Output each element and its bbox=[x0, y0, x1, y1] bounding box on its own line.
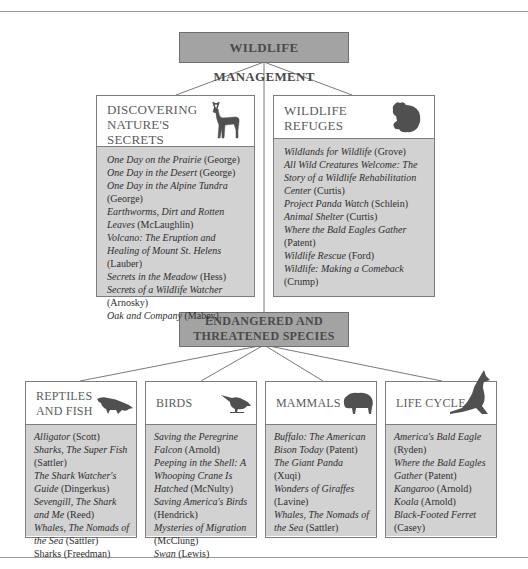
card-mammals: MAMMALS Buffalo: The American Bison Toda… bbox=[265, 381, 377, 538]
book-entry: Wildlands for Wildlife (Grove) bbox=[284, 145, 426, 158]
alligator-icon bbox=[96, 394, 134, 416]
card-title-line: NATURE'S bbox=[107, 117, 197, 132]
book-entry: One Day on the Prairie (George) bbox=[107, 153, 246, 166]
book-list: Alligator (Scott) Sharks, The Super Fish… bbox=[26, 425, 136, 536]
book-entry: One Day in the Alpine Tundra (George) bbox=[107, 179, 246, 205]
card-title-line: DISCOVERING bbox=[107, 102, 197, 117]
book-entry: Kangaroo (Arnold) bbox=[394, 482, 490, 495]
book-entry: Wildlife Rescue (Ford) bbox=[284, 249, 426, 262]
deer-icon bbox=[209, 100, 243, 140]
book-list: Buffalo: The American Bison Today (Paten… bbox=[266, 425, 376, 536]
kangaroo-icon bbox=[448, 368, 494, 420]
book-entry: Sharks, The Super Fish (Sattler) bbox=[34, 443, 130, 469]
top-divider bbox=[0, 11, 528, 12]
book-entry: Where the Bald Eagles Gather (Patent) bbox=[394, 456, 490, 482]
header-title: WILDLIFE MANAGEMENT bbox=[213, 40, 314, 84]
book-entry: Sevengill, The Shark and Me (Reed) bbox=[34, 495, 130, 521]
bison-icon bbox=[342, 390, 374, 416]
card-birds: BIRDS Saving the Peregrine Falcon (Arnol… bbox=[145, 381, 257, 538]
book-entry: Peeping in the Shell: A Whooping Crane I… bbox=[154, 456, 250, 495]
book-list: America's Bald Eagle (Ryden) Where the B… bbox=[386, 425, 496, 536]
card-title-line: BIRDS bbox=[156, 396, 192, 411]
book-entry: Project Panda Watch (Schlein) bbox=[284, 197, 426, 210]
book-list: Wildlands for Wildlife (Grove) All Wild … bbox=[274, 139, 434, 296]
book-entry: Saving the Peregrine Falcon (Arnold) bbox=[154, 430, 250, 456]
book-entry: The Shark Watcher's Guide (Dingerkus) bbox=[34, 469, 130, 495]
card-title-line: SECRETS bbox=[107, 132, 197, 147]
card-title-line: WILDLIFE bbox=[284, 103, 347, 118]
card-reptiles-and-fish: REPTILES AND FISH Alligator (Scott) Shar… bbox=[25, 381, 137, 538]
card-discovering-natures-secrets: DISCOVERING NATURE'S SECRETS One Day on … bbox=[96, 95, 255, 297]
wildlife-management-header: WILDLIFE MANAGEMENT bbox=[179, 32, 349, 63]
book-entry: Oak and Company (Mabey) bbox=[107, 309, 246, 322]
book-entry: Koala (Arnold) bbox=[394, 495, 490, 508]
book-entry: Buffalo: The American Bison Today (Paten… bbox=[274, 430, 370, 456]
card-title-line: REPTILES bbox=[36, 389, 93, 404]
book-entry: Volcano: The Eruption and Healing of Mou… bbox=[107, 231, 246, 270]
book-entry: Swan (Lewis) bbox=[154, 547, 250, 560]
book-entry: Sharks (Freedman) bbox=[34, 547, 130, 560]
book-entry: Wonders of Giraffes (Lavine) bbox=[274, 482, 370, 508]
card-title-line: AND FISH bbox=[36, 404, 93, 419]
card-title-line: REFUGES bbox=[284, 118, 347, 133]
book-entry: One Day in the Desert (George) bbox=[107, 166, 246, 179]
book-entry: Animal Shelter (Curtis) bbox=[284, 210, 426, 223]
book-entry: Where the Bald Eagles Gather (Patent) bbox=[284, 223, 426, 249]
header-title-line2: THREATENED SPECIES bbox=[180, 329, 348, 344]
book-entry: Secrets of a Wildlife Watcher (Arnosky) bbox=[107, 283, 246, 309]
book-list: One Day on the Prairie (George) One Day … bbox=[97, 147, 254, 296]
book-list: Saving the Peregrine Falcon (Arnold) Pee… bbox=[146, 425, 256, 536]
book-entry: The Giant Panda (Xuqi) bbox=[274, 456, 370, 482]
book-entry: Wildlife: Making a Comeback (Crump) bbox=[284, 262, 426, 288]
book-entry: All Wild Creatures Welcome: The Story of… bbox=[284, 158, 426, 197]
card-wildlife-refuges: WILDLIFE REFUGES Wildlands for Wildlife … bbox=[273, 95, 435, 297]
bird-icon bbox=[220, 392, 254, 416]
book-entry: Black-Footed Ferret (Casey) bbox=[394, 508, 490, 534]
card-life-cycle: LIFE CYCLE America's Bald Eagle (Ryden) … bbox=[385, 381, 497, 538]
card-title-line: MAMMALS bbox=[276, 396, 341, 411]
book-entry: Alligator (Scott) bbox=[34, 430, 130, 443]
book-entry: Whales, The Nomads of the Sea (Sattler) bbox=[274, 508, 370, 534]
book-entry: Whales, The Nomads of the Sea (Sattler) bbox=[34, 521, 130, 547]
book-entry: Earthworms, Dirt and Rotten Leaves (McLa… bbox=[107, 205, 246, 231]
book-entry: America's Bald Eagle (Ryden) bbox=[394, 430, 490, 456]
book-entry: Saving America's Birds (Hendrick) bbox=[154, 495, 250, 521]
bear-icon bbox=[389, 100, 423, 134]
book-entry: Mysteries of Migration (McClung) bbox=[154, 521, 250, 547]
book-entry: Secrets in the Meadow (Hess) bbox=[107, 270, 246, 283]
